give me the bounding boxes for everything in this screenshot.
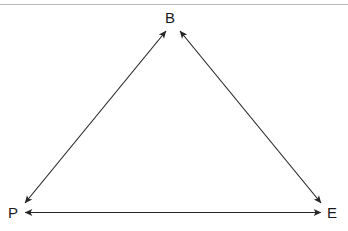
node-label-e: E <box>327 205 337 220</box>
triangle-diagram <box>0 0 348 231</box>
node-label-b: B <box>165 10 175 25</box>
diagram-canvas: B P E <box>0 0 348 231</box>
node-label-p: P <box>8 205 18 220</box>
edge-p-b <box>25 31 166 203</box>
edge-b-e <box>180 31 321 203</box>
